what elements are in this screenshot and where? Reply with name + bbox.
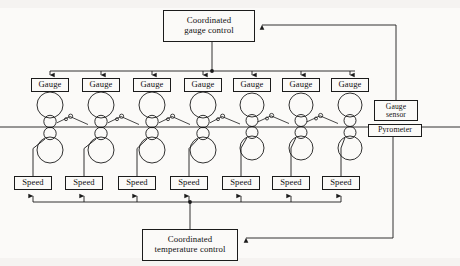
speed-riser-arrows (33, 196, 341, 202)
speed-box-label: Speed (178, 178, 200, 188)
speed-box-label: Speed (230, 178, 252, 188)
speed-box[interactable]: Speed (222, 176, 260, 190)
coordinated-temperature-control-box[interactable]: Coordinated temperature control (142, 229, 238, 261)
mill-stand (37, 92, 63, 163)
speed-box[interactable]: Speed (118, 176, 156, 190)
gauge-box-label: Gauge (241, 80, 264, 90)
speed-box[interactable]: Speed (65, 176, 103, 190)
mill-stand (289, 93, 313, 160)
gauge-box-label: Gauge (141, 80, 164, 90)
speed-box[interactable]: Speed (170, 176, 208, 190)
looper (210, 114, 240, 124)
speed-distribution-bus (33, 200, 341, 229)
diagram-canvas: Coordinated gauge control Coordinated te… (0, 0, 460, 266)
speed-box-label: Speed (330, 178, 352, 188)
gauge-box[interactable]: Gauge (133, 78, 171, 92)
speed-box-label: Speed (280, 178, 302, 188)
speed-box-label: Speed (22, 178, 44, 188)
gauge-sensor-line2: sensor (386, 111, 406, 119)
pyrometer-feedback-path (246, 131, 393, 238)
looper (159, 114, 190, 124)
gauge-control-line2: gauge control (184, 26, 233, 36)
speed-box[interactable]: Speed (322, 176, 360, 190)
gauge-box-label: Gauge (192, 80, 215, 90)
mill-stand (190, 92, 216, 163)
speed-box-label: Speed (73, 178, 95, 188)
looper (57, 114, 88, 124)
gauge-box-label: Gauge (290, 80, 313, 90)
speed-box[interactable]: Speed (272, 176, 310, 190)
gauge-drop-arrows (50, 71, 350, 75)
mill-stands (37, 92, 362, 163)
gauge-box[interactable]: Gauge (233, 78, 271, 92)
gauge-sensor-box[interactable]: Gauge sensor (374, 100, 418, 121)
gauge-sensor-feedback-path (262, 25, 396, 110)
looper (258, 113, 289, 123)
mill-stand (240, 93, 264, 160)
mill-stand (88, 92, 114, 163)
gauge-box-label: Gauge (39, 80, 62, 90)
speed-drive-connectors (33, 138, 345, 177)
looper (307, 113, 338, 123)
mill-stand (139, 92, 165, 163)
gauge-box-label: Gauge (339, 80, 362, 90)
mill-stand (338, 93, 362, 160)
coordinated-gauge-control-box[interactable]: Coordinated gauge control (163, 10, 255, 42)
gauge-box-label: Gauge (90, 80, 113, 90)
gauge-box[interactable]: Gauge (282, 78, 320, 92)
pyrometer-label: Pyrometer (378, 126, 412, 135)
speed-box-label: Speed (126, 178, 148, 188)
temperature-control-line2: temperature control (154, 245, 225, 255)
gauge-box[interactable]: Gauge (184, 78, 222, 92)
looper (108, 114, 139, 124)
gauge-box[interactable]: Gauge (331, 78, 369, 92)
gauge-distribution-bus (50, 42, 355, 73)
gauge-box[interactable]: Gauge (82, 78, 120, 92)
pyrometer-box[interactable]: Pyrometer (368, 124, 422, 137)
gauge-box[interactable]: Gauge (31, 78, 69, 92)
speed-box[interactable]: Speed (14, 176, 52, 190)
